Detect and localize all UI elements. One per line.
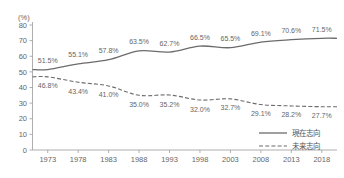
y-axis-tick-label: 70 (19, 36, 27, 45)
data-label: 46.8% (38, 82, 58, 89)
x-axis-tick-label: 1978 (70, 155, 87, 164)
line-chart: (%) 01020304050607080 197319781983198819… (0, 0, 344, 178)
chart-canvas: (%) 01020304050607080 197319781983198819… (0, 0, 344, 178)
y-axis-tick-label: 60 (19, 52, 27, 61)
data-label: 28.2% (281, 111, 301, 118)
x-axis-tick-label: 1998 (192, 155, 209, 164)
x-axis-tick-label: 2003 (222, 155, 239, 164)
data-label: 65.5% (220, 35, 240, 42)
x-axis-tick-label: 2013 (283, 155, 300, 164)
x-axis-tick-label: 2008 (253, 155, 270, 164)
series-lines (33, 38, 338, 107)
x-axis: 1973197819831988199319982003200820132018 (33, 150, 338, 164)
data-label: 55.1% (68, 51, 88, 58)
x-axis-tick-label: 1983 (100, 155, 117, 164)
x-axis-tick-label: 1993 (161, 155, 178, 164)
data-label: 57.8% (99, 47, 119, 54)
legend-label-1: 現在志向 (292, 128, 320, 138)
data-label: 41.0% (99, 91, 119, 98)
data-label: 69.1% (251, 30, 271, 37)
x-axis-tick-label: 1988 (131, 155, 148, 164)
data-label: 35.0% (129, 101, 149, 108)
y-axis-tick-label: 0 (23, 146, 27, 155)
data-label: 70.6% (281, 27, 301, 34)
y-axis-tick-label: 10 (19, 130, 27, 139)
data-label: 32.7% (220, 104, 240, 111)
data-label: 32.0% (190, 106, 210, 113)
y-axis-tick-label: 50 (19, 68, 27, 77)
data-label: 43.4% (68, 88, 88, 95)
y-axis-tick-label: 20 (19, 114, 27, 123)
legend-label-2: 未来志向 (292, 141, 320, 151)
y-axis: 01020304050607080 (19, 21, 33, 155)
chart-legend: 現在志向未来志向 (259, 128, 320, 151)
data-label: 29.1% (251, 110, 271, 117)
data-label: 71.5% (312, 26, 332, 33)
data-label: 62.7% (160, 40, 180, 47)
y-axis-tick-label: 80 (19, 21, 27, 30)
data-label: 27.7% (312, 112, 332, 119)
y-axis-tick-label: 30 (19, 99, 27, 108)
data-label: 35.2% (160, 101, 180, 108)
data-label: 63.5% (129, 38, 149, 45)
x-axis-tick-label: 1973 (39, 155, 56, 164)
data-label: 51.5% (38, 57, 58, 64)
x-axis-tick-label: 2018 (313, 155, 330, 164)
y-axis-tick-label: 40 (19, 83, 27, 92)
data-label: 66.5% (190, 34, 210, 41)
